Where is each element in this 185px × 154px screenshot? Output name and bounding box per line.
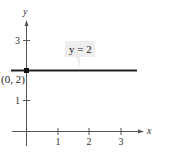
x-axis-label: x (146, 125, 152, 136)
y-tick-label-1: 1 (15, 95, 20, 106)
y-axis-arrow-icon (25, 20, 29, 26)
y-tick-label-3: 3 (15, 35, 20, 46)
chart: y x 1 2 3 3 1 (0, 2) y = 2 (0, 0, 185, 154)
x-tick-label-2: 2 (87, 136, 92, 147)
x-tick-label-1: 1 (56, 136, 61, 147)
callout-pointer (76, 57, 80, 68)
x-axis-arrow-icon (138, 130, 144, 134)
line-label: y = 2 (69, 43, 92, 55)
point-label: (0, 2) (1, 73, 25, 86)
x-tick-label-3: 3 (119, 136, 124, 147)
y-axis-label: y (22, 6, 28, 17)
